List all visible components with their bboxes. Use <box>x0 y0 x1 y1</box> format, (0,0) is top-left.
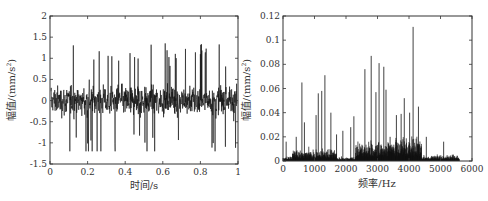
y-tick-label: 0.04 <box>260 108 280 118</box>
y-tick-label: 0 <box>274 156 280 166</box>
left-y-axis-label: 幅值/(mm/s2) <box>5 59 17 122</box>
y-tick-label: 1 <box>41 53 47 63</box>
y-tick-label: -1 <box>38 138 47 148</box>
y-tick-label: 0.02 <box>260 132 280 142</box>
x-tick-label: 3000 <box>366 164 389 174</box>
y-tick-label: 0.1 <box>266 35 280 45</box>
x-tick-label: 0 <box>280 164 286 174</box>
x-tick-label: 0.4 <box>118 167 133 177</box>
y-tick-label: 2 <box>41 11 47 21</box>
y-tick-label: 0.06 <box>260 84 280 94</box>
y-tick-label: -1.5 <box>30 159 48 169</box>
right-y-axis-label: 幅值/(mm/s2) <box>240 59 252 122</box>
y-tick-label: 0.08 <box>260 59 280 69</box>
time-domain-chart: 00.20.40.60.81 -1.5-1-0.500.511.52 时间/s … <box>0 0 488 201</box>
left-plot-frame <box>50 16 238 164</box>
y-tick-label: 0.5 <box>33 74 48 84</box>
left-y-ticks: -1.5-1-0.500.511.52 <box>30 11 238 169</box>
frequency-spectrum-plot: 0100020003000400050006000 00.020.040.060… <box>240 11 484 189</box>
time-signal-trace <box>51 43 237 151</box>
y-tick-label: 0 <box>41 96 47 106</box>
x-tick-label: 4000 <box>398 164 421 174</box>
right-x-axis-label: 频率/Hz <box>358 177 395 189</box>
x-tick-label: 0.8 <box>193 167 208 177</box>
right-y-ticks: 00.020.040.060.080.10.12 <box>260 11 472 166</box>
x-tick-label: 1 <box>235 167 241 177</box>
time-domain-plot: 00.20.40.60.81 -1.5-1-0.500.511.52 时间/s … <box>5 11 241 191</box>
left-x-axis-label: 时间/s <box>130 179 159 191</box>
right-plot-frame <box>283 16 472 161</box>
x-tick-label: 0.2 <box>80 167 94 177</box>
y-tick-label: 1.5 <box>33 32 48 42</box>
x-tick-label: 5000 <box>429 164 452 174</box>
y-tick-label: -0.5 <box>30 117 48 127</box>
x-tick-label: 6000 <box>461 164 484 174</box>
spectrum-bars <box>284 27 460 161</box>
y-tick-label: 0.12 <box>260 11 280 21</box>
x-tick-label: 2000 <box>335 164 358 174</box>
x-tick-label: 0.6 <box>156 167 171 177</box>
x-tick-label: 1000 <box>303 164 326 174</box>
x-tick-label: 0 <box>47 167 53 177</box>
